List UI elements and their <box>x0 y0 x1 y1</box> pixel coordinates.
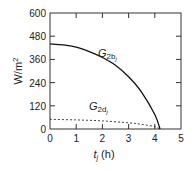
plot-frame <box>50 13 181 129</box>
y-tick-label: 0 <box>40 124 46 135</box>
y-tick-label: 360 <box>29 54 46 65</box>
y-axis-label: W/m2 <box>11 57 24 85</box>
series-g2dj <box>50 119 160 129</box>
x-axis-label: tj (h) <box>93 148 114 162</box>
curve-label-g2dj: G2dj <box>89 100 108 115</box>
x-tick-label: 2 <box>100 133 106 144</box>
chart: 0123450120240360480600 G2bj G2dj W/m2 tj… <box>0 0 193 172</box>
curve-label-g2bj: G2bj <box>98 47 117 62</box>
tick-labels: 0123450120240360480600 <box>29 8 184 144</box>
y-tick-label: 480 <box>29 31 46 42</box>
x-tick-label: 4 <box>152 133 158 144</box>
axis-ticks <box>50 13 181 129</box>
y-tick-label: 600 <box>29 8 46 19</box>
x-tick-label: 3 <box>126 133 132 144</box>
y-tick-label: 120 <box>29 101 46 112</box>
y-tick-label: 240 <box>29 78 46 89</box>
x-tick-label: 1 <box>73 133 79 144</box>
x-tick-label: 0 <box>47 133 53 144</box>
x-tick-label: 5 <box>178 133 184 144</box>
